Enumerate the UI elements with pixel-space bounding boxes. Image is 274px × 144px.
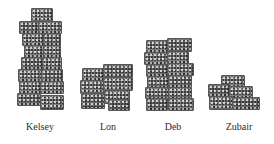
cube-stack-deb bbox=[142, 38, 196, 112]
label-zubair: Zubair bbox=[219, 121, 259, 132]
label-lon: Lon bbox=[90, 121, 126, 132]
cube bbox=[103, 77, 133, 91]
cube bbox=[167, 38, 192, 52]
cube bbox=[103, 64, 133, 78]
cube bbox=[31, 8, 53, 22]
cube bbox=[40, 95, 64, 110]
cube bbox=[81, 93, 105, 109]
cube bbox=[40, 81, 64, 94]
cube bbox=[168, 98, 194, 111]
label-kelsey: Kelsey bbox=[20, 121, 60, 132]
cube-stack-lon bbox=[78, 64, 136, 112]
cube-stack-zubair bbox=[206, 75, 263, 112]
cube bbox=[80, 80, 104, 94]
cube bbox=[146, 98, 168, 111]
label-deb: Deb bbox=[155, 121, 191, 132]
cube bbox=[232, 97, 260, 110]
cube bbox=[17, 93, 41, 106]
cube bbox=[108, 99, 130, 111]
cube-stacks-figure: Kelsey Lon Deb Zubair bbox=[0, 0, 274, 144]
cube bbox=[209, 96, 233, 110]
cube-stack-kelsey bbox=[14, 8, 66, 112]
